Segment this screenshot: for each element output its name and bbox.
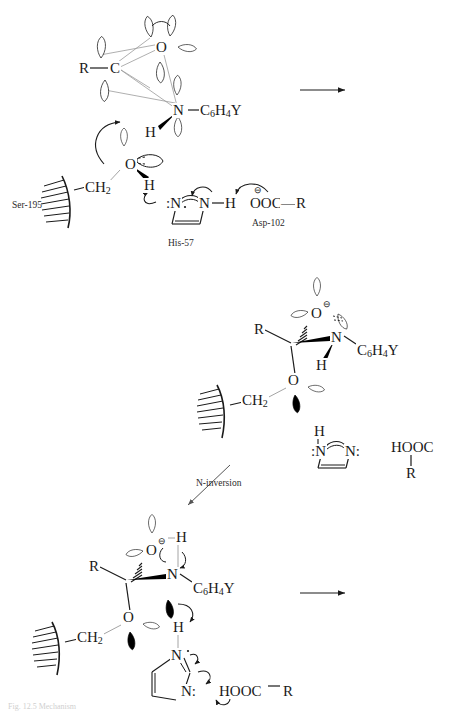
- top-label-N-right: N: [198, 196, 211, 211]
- top-label-aryl: C6H4Y: [199, 103, 243, 119]
- top-label-C: C: [109, 61, 121, 76]
- bottom-wedge-C-N: [127, 574, 166, 580]
- bottom-label-N: N: [166, 567, 179, 582]
- top-label-R: R: [78, 61, 90, 76]
- top-label-carboxylate: OOC: [249, 196, 283, 211]
- middle-label-N-lone-right: N:: [344, 444, 361, 459]
- label-ser195-top: Ser-195: [12, 200, 42, 210]
- middle-label-HOOC: HOOC: [390, 440, 435, 455]
- label-asp102: Asp-102: [252, 218, 285, 228]
- bottom-label-ring-N-top: N: [170, 648, 183, 663]
- ser195-protein-wall-middle: [197, 385, 224, 438]
- top-label-asp-R: R: [295, 196, 307, 211]
- bottom-ser-oxygen-lobes: [127, 621, 160, 650]
- middle-ser-oxygen-lobes: [292, 384, 325, 413]
- top-arrow-asp-to-H: [236, 184, 268, 194]
- middle-label-aryl: C6H4Y: [356, 343, 400, 359]
- figure-caption: Fig. 12.5 Mechanism: [8, 702, 76, 711]
- top-label-O-ser: O: [124, 157, 137, 172]
- top-arrow-N-to-H: [144, 192, 156, 204]
- bottom-label-OH-H: H: [175, 530, 188, 545]
- top-label-H-ser: H: [143, 178, 156, 193]
- label-his57-top: His-57: [168, 238, 194, 248]
- middle-label-CH2: CH2: [241, 393, 269, 409]
- top-label-N: N: [172, 103, 185, 118]
- ser195-protein-wall-bottom: [32, 622, 59, 675]
- top-label-O: O: [155, 40, 168, 55]
- middle-charge-minus: ⊖: [322, 300, 332, 309]
- bottom-label-H-transfer: H: [172, 620, 185, 635]
- top-arrow-O-attack: [96, 122, 120, 164]
- middle-label-R: R: [253, 322, 265, 337]
- bottom-label-aryl: C6H4Y: [192, 581, 236, 597]
- bottom-label-O-ser: O: [122, 610, 135, 625]
- bottom-label-CH2: CH2: [76, 630, 104, 646]
- bottom-bond-C-Oser: [126, 583, 130, 611]
- bottom-bond-N-aryl: [180, 574, 192, 582]
- bottom-arrow-ring: [180, 552, 186, 568]
- middle-label-N: N: [330, 330, 343, 345]
- bottom-N-lone-lobe: [165, 599, 175, 619]
- middle-label-H: H: [315, 358, 328, 373]
- top-label-CH2: CH2: [84, 180, 112, 196]
- top-charge-minus-asp: ⊖: [253, 186, 263, 195]
- middle-bond-N-aryl: [344, 336, 356, 344]
- middle-label-asp-R: R: [405, 466, 417, 481]
- figure-canvas: R C O N H C6H4Y O H CH2 Ser-195 :N N H H…: [0, 0, 457, 712]
- bottom-label-acid-R: R: [282, 684, 294, 699]
- top-label-H: H: [144, 125, 157, 140]
- bottom-label-O-minus: O: [145, 543, 158, 558]
- bottom-label-HOOC: HOOC: [218, 684, 263, 699]
- bottom-label-R: R: [88, 559, 100, 574]
- bottom-label-ring-N-bottom: N:: [180, 684, 197, 699]
- middle-bond-C-Oser: [291, 346, 295, 374]
- middle-label-N-lone-left: :N: [310, 444, 327, 459]
- top-label-H-his: H: [224, 196, 237, 211]
- middle-label-O-ser: O: [287, 373, 300, 388]
- bottom-arrow-ring2: [198, 671, 210, 684]
- label-n-inversion: N-inversion: [196, 478, 241, 488]
- middle-wedge-C-N: [292, 336, 330, 343]
- middle-label-H-imidazole: H: [313, 424, 326, 439]
- top-label-N-lone-left: :N: [165, 196, 182, 211]
- middle-bond-R-C: [265, 330, 291, 343]
- bottom-charge-minus: ⊖: [157, 537, 167, 546]
- ser195-protein-wall: [41, 176, 70, 228]
- bottom-bond-R-C: [100, 567, 126, 580]
- middle-label-O-minus: O: [310, 306, 323, 321]
